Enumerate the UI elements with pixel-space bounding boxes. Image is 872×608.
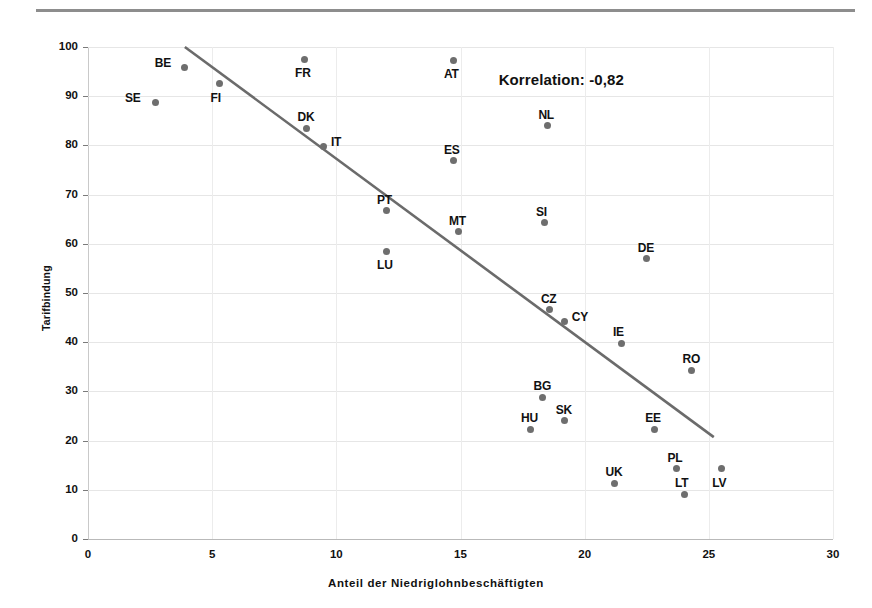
data-point <box>181 64 188 71</box>
data-point <box>718 465 725 472</box>
data-point <box>561 318 568 325</box>
x-axis-line <box>88 539 833 540</box>
x-tick-label: 10 <box>316 548 356 560</box>
y-tick-mark <box>83 195 88 196</box>
x-gridline <box>461 47 462 539</box>
y-tick-mark <box>83 96 88 97</box>
data-point-label: PT <box>377 193 392 207</box>
data-point-label: IE <box>613 325 624 339</box>
x-gridline <box>709 47 710 539</box>
data-point-label: AT <box>444 67 459 81</box>
data-point <box>450 157 457 164</box>
y-tick-label: 60 <box>36 237 78 249</box>
data-point-label: DK <box>298 110 315 124</box>
data-point-label: SI <box>536 205 547 219</box>
data-point-label: SE <box>125 91 141 105</box>
data-point-label: SK <box>556 403 572 417</box>
data-point-label: BE <box>155 56 171 70</box>
y-tick-mark <box>83 293 88 294</box>
x-tick-label: 30 <box>813 548 853 560</box>
x-gridline <box>585 47 586 539</box>
y-tick-label: 80 <box>36 138 78 150</box>
y-tick-mark <box>83 145 88 146</box>
x-tick-label: 25 <box>689 548 729 560</box>
y-tick-mark <box>83 391 88 392</box>
data-point-label: LU <box>377 258 393 272</box>
data-point-label: PL <box>668 451 683 465</box>
x-tick-label: 15 <box>441 548 481 560</box>
data-point-label: RO <box>682 352 700 366</box>
y-tick-mark <box>83 490 88 491</box>
y-tick-label: 70 <box>36 188 78 200</box>
data-point-label: EE <box>645 411 661 425</box>
data-point-label: FR <box>295 66 311 80</box>
data-point <box>303 125 310 132</box>
data-point <box>651 426 658 433</box>
data-point-label: LT <box>675 476 688 490</box>
data-point <box>450 57 457 64</box>
data-point <box>152 99 159 106</box>
data-point-label: FI <box>211 91 221 105</box>
data-point <box>681 491 688 498</box>
data-point-label: ES <box>444 143 460 157</box>
y-tick-label: 0 <box>36 532 78 544</box>
x-tick-label: 0 <box>68 548 108 560</box>
y-tick-label: 50 <box>36 286 78 298</box>
data-point <box>539 394 546 401</box>
y-tick-label: 40 <box>36 335 78 347</box>
x-gridline <box>212 47 213 539</box>
data-point-label: DE <box>638 241 654 255</box>
scatter-chart-figure: Korrelation: -0,82 Tarifbindung Anteil d… <box>0 0 872 608</box>
data-point-label: MT <box>449 214 466 228</box>
y-axis-title: Tarifbindung <box>40 265 52 331</box>
y-tick-mark <box>83 47 88 48</box>
y-tick-label: 100 <box>36 40 78 52</box>
y-tick-label: 30 <box>36 384 78 396</box>
y-tick-label: 20 <box>36 434 78 446</box>
data-point-label: NL <box>538 108 554 122</box>
data-point <box>383 248 390 255</box>
x-axis-title: Anteil der Niedriglohnbeschäftigten <box>0 577 872 589</box>
data-point-label: LV <box>712 476 726 490</box>
y-tick-mark <box>83 441 88 442</box>
data-point-label: UK <box>605 465 622 479</box>
data-point <box>611 480 618 487</box>
data-point <box>383 207 390 214</box>
x-gridline <box>336 47 337 539</box>
data-point <box>688 367 695 374</box>
y-tick-label: 90 <box>36 89 78 101</box>
data-point-label: CZ <box>541 292 557 306</box>
data-point <box>527 426 534 433</box>
data-point-label: IT <box>331 135 341 149</box>
header-divider-rule <box>36 9 855 12</box>
data-point-label: BG <box>533 379 551 393</box>
data-point-label: HU <box>521 411 538 425</box>
y-tick-mark <box>83 342 88 343</box>
data-point-label: CY <box>572 310 588 324</box>
y-tick-mark <box>83 244 88 245</box>
data-point <box>301 56 308 63</box>
y-tick-label: 10 <box>36 483 78 495</box>
correlation-annotation: Korrelation: -0,82 <box>499 71 624 88</box>
y-tick-mark <box>83 539 88 540</box>
x-tick-label: 5 <box>192 548 232 560</box>
x-gridline <box>833 47 834 539</box>
x-tick-label: 20 <box>565 548 605 560</box>
